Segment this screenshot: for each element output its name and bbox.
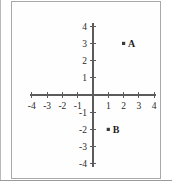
figure-page: -4-3-2-112344321-1-2-3-4 AB [0, 0, 172, 187]
plotted-point-b [107, 128, 110, 131]
x-axis-tick-label: 4 [152, 101, 157, 111]
y-axis-tick-label: -2 [79, 125, 87, 135]
y-axis-tick-label: -1 [79, 108, 87, 118]
y-axis-tick-label: 2 [82, 56, 87, 66]
y-axis-tick-label: 3 [82, 39, 87, 49]
x-axis-tick-label: -2 [58, 101, 66, 111]
x-axis-tick-label: 1 [106, 101, 111, 111]
y-axis-tick-label: 1 [82, 73, 87, 83]
y-axis-tick-label: 4 [82, 22, 87, 32]
axes-group [30, 23, 156, 167]
y-axis-tick-label: -4 [79, 159, 87, 169]
y-axis-tick-label: -3 [79, 142, 87, 152]
plotted-points-group: AB [107, 38, 136, 135]
point-label-b: B [113, 124, 120, 135]
point-label-a: A [128, 38, 136, 49]
x-axis-tick-label: -3 [43, 101, 51, 111]
x-axis-tick-label: 3 [137, 101, 142, 111]
x-axis-tick-label: -4 [28, 101, 36, 111]
plotted-point-a [122, 42, 125, 45]
coordinate-plane: -4-3-2-112344321-1-2-3-4 AB [0, 0, 172, 187]
x-axis-tick-label: 2 [121, 101, 126, 111]
